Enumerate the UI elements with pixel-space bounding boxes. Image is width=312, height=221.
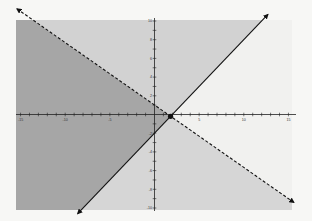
intersection-point	[168, 114, 173, 119]
x-tick-label: 10	[242, 118, 246, 122]
y-tick-label: 10	[148, 19, 152, 23]
y-tick-label: 2	[150, 94, 152, 98]
x-tick-label: -10	[63, 118, 68, 122]
inequality-graph: -15-10-551015-10-8-6-4-2246810	[0, 0, 312, 221]
x-tick-label: 15	[286, 118, 290, 122]
x-tick-label: -5	[108, 118, 111, 122]
x-tick-label: -15	[18, 118, 23, 122]
y-tick-label: -8	[149, 188, 152, 192]
intersection-dot	[168, 114, 173, 119]
y-tick-label: -2	[149, 132, 152, 136]
y-tick-label: -10	[147, 206, 152, 210]
y-tick-label: 8	[150, 38, 152, 42]
x-tick-label: 5	[198, 118, 200, 122]
y-tick-label: 4	[150, 75, 152, 79]
y-tick-label: 6	[150, 57, 152, 61]
y-tick-label: -6	[149, 169, 152, 173]
y-tick-label: -4	[149, 150, 152, 154]
